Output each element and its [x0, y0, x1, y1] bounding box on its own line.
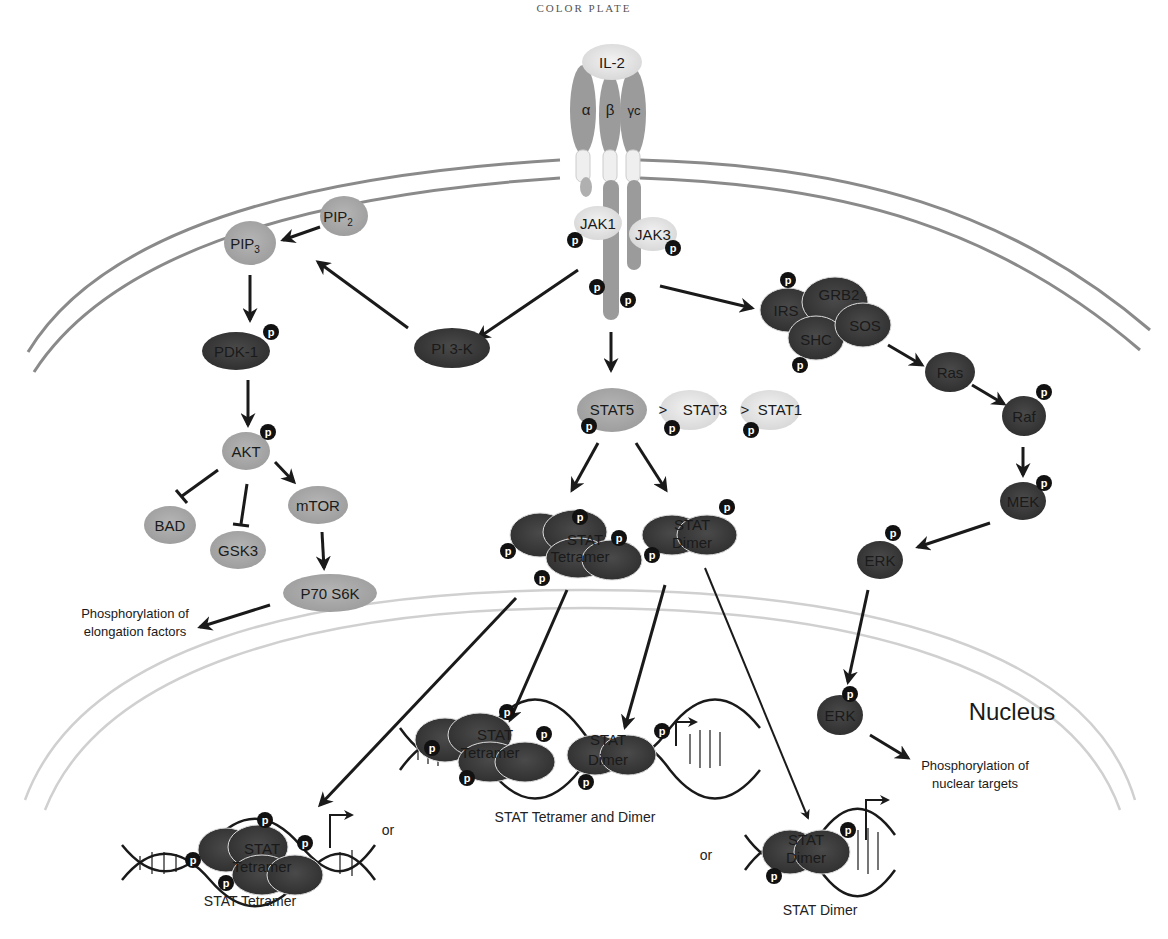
- or-label: or: [700, 847, 713, 863]
- svg-text:Tetramer: Tetramer: [460, 744, 519, 761]
- phospho-icon: [654, 723, 670, 739]
- stat-tetramer-cytoplasm: STAT Tetramer: [500, 509, 642, 586]
- dna-dimer: STAT Dimer: [745, 800, 895, 896]
- or-label: or: [382, 822, 395, 838]
- phospho-icon: [185, 852, 201, 868]
- stat-dimer-cytoplasm: STAT Dimer: [642, 499, 737, 563]
- elongation-outcome-line1: Phosphorylation of: [81, 606, 189, 621]
- svg-text:Dimer: Dimer: [588, 751, 628, 768]
- pip3-label: PIP: [230, 235, 254, 252]
- svg-text:IRS: IRS: [773, 302, 798, 319]
- arrow-to-irs: [660, 286, 752, 308]
- phospho-icon: [644, 547, 660, 563]
- svg-text:SOS: SOS: [849, 317, 881, 334]
- p70s6k-label: P70 S6K: [300, 585, 359, 602]
- phospho-icon: [572, 509, 588, 525]
- phospho-icon: [260, 424, 276, 440]
- caption-tetramer: STAT Tetramer: [204, 893, 297, 909]
- svg-text:>: >: [659, 401, 668, 418]
- jak1-label: JAK1: [580, 215, 616, 232]
- svg-text:ERK: ERK: [865, 552, 896, 569]
- phospho-icon: [536, 726, 552, 742]
- phospho-icon: [664, 420, 680, 436]
- phospho-icon: [611, 530, 627, 546]
- transcription-start-icon: [676, 722, 696, 746]
- svg-text:ERK: ERK: [825, 707, 856, 724]
- akt-label: AKT: [231, 443, 260, 460]
- beta-cytoplasmic-tail: [603, 180, 619, 320]
- stat1-label: STAT1: [758, 401, 802, 418]
- alpha-label: α: [582, 101, 591, 118]
- svg-text:STAT: STAT: [244, 840, 280, 857]
- svg-text:Dimer: Dimer: [786, 849, 826, 866]
- beta-label: β: [606, 101, 615, 118]
- phospho-icon: [500, 543, 516, 559]
- svg-text:Tetramer: Tetramer: [232, 858, 291, 875]
- caption-tetramer-and-dimer: STAT Tetramer and Dimer: [495, 809, 656, 825]
- plate-header: COLOR PLATE: [536, 2, 631, 14]
- svg-text:STAT: STAT: [567, 531, 603, 548]
- mtor-label: mTOR: [296, 497, 340, 514]
- stat3-label: STAT3: [683, 401, 727, 418]
- phospho-icon: [424, 740, 440, 756]
- bad-label: BAD: [155, 517, 186, 534]
- svg-text:SHC: SHC: [800, 331, 832, 348]
- phospho-icon: [665, 240, 681, 256]
- il2-label: IL-2: [599, 54, 625, 71]
- svg-text:STAT: STAT: [788, 831, 824, 848]
- phospho-icon: [297, 835, 313, 851]
- svg-text:GRB2: GRB2: [819, 286, 860, 303]
- jak3-label: JAK3: [635, 226, 671, 243]
- phospho-icon: [766, 868, 782, 884]
- svg-text:Ras: Ras: [937, 364, 964, 381]
- pdk1-label: PDK-1: [214, 343, 258, 360]
- phospho-icon: [840, 822, 856, 838]
- svg-text:STAT: STAT: [590, 731, 626, 748]
- gamma-label: γc: [628, 103, 642, 118]
- phospho-icon: [534, 570, 550, 586]
- pip2-label: PIP: [323, 208, 347, 225]
- phospho-icon: [780, 272, 796, 288]
- svg-text:Dimer: Dimer: [672, 534, 712, 551]
- phospho-icon: [578, 774, 594, 790]
- phospho-icon: [885, 525, 901, 541]
- phospho-icon: [459, 770, 475, 786]
- nuclear-outcome-line1: Phosphorylation of: [921, 758, 1029, 773]
- svg-text:STAT: STAT: [477, 726, 513, 743]
- phospho-icon: [499, 704, 515, 720]
- nuclear-outcome-line2: nuclear targets: [932, 776, 1018, 791]
- caption-dimer: STAT Dimer: [783, 902, 858, 918]
- il2-receptor: IL-2 α β γc JAK1 JAK3: [567, 44, 681, 320]
- phospho-icon: [743, 422, 759, 438]
- phospho-icon: [257, 812, 273, 828]
- svg-text:Raf: Raf: [1012, 408, 1036, 425]
- phospho-icon: [842, 686, 858, 702]
- nucleus-label: Nucleus: [969, 698, 1056, 725]
- il2-signaling-diagram: p COLOR PLATE IL-2 α β γc JAK1 JAK3: [0, 0, 1168, 939]
- phospho-icon: [1036, 475, 1052, 491]
- phospho-icon: [1036, 384, 1052, 400]
- phospho-icon: [719, 499, 735, 515]
- svg-text:MEK: MEK: [1007, 493, 1040, 510]
- transcription-start-icon: [866, 800, 888, 840]
- phospho-icon: [792, 357, 808, 373]
- pi3k-label: PI 3-K: [431, 340, 473, 357]
- phospho-icon: [218, 875, 234, 891]
- stat5-label: STAT5: [590, 401, 634, 418]
- phospho-icon: [263, 324, 279, 340]
- gsk3-label: GSK3: [218, 542, 258, 559]
- svg-text:>: >: [741, 401, 750, 418]
- phospho-icon: [581, 418, 597, 434]
- arrow-to-pi3k: [478, 270, 578, 338]
- elongation-outcome-line2: elongation factors: [84, 624, 187, 639]
- phospho-icon: [589, 279, 605, 295]
- transcription-start-icon: [330, 815, 352, 848]
- pi3k-pathway: PI 3-K PIP2 PIP3 PDK-1 AKT BAD GSK3 mTOR…: [81, 196, 490, 639]
- svg-text:STAT: STAT: [674, 516, 710, 533]
- phospho-icon: [620, 292, 636, 308]
- phospho-icon: [567, 232, 583, 248]
- stat-pathway: STAT5 > STAT3 > STAT1 STAT Tetramer STAT: [320, 388, 808, 818]
- dna-tetramer-and-dimer: STAT Tetramer STAT Dimer: [400, 700, 760, 799]
- svg-text:Tetramer: Tetramer: [550, 548, 609, 565]
